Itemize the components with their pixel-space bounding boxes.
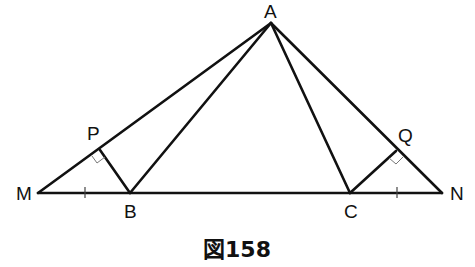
segment-CQ: [350, 151, 396, 193]
segment-BP: [100, 150, 130, 193]
label-M: M: [16, 183, 32, 204]
right-angle-mark-Q: [389, 157, 403, 164]
label-N: N: [450, 183, 464, 204]
segment-AM: [38, 23, 271, 193]
geometry-figure: A P Q M N B C 図158: [0, 0, 475, 267]
label-Q: Q: [398, 125, 413, 146]
figure-caption: 図158: [203, 237, 271, 262]
right-angle-mark-P: [92, 156, 105, 163]
segment-AN: [271, 23, 442, 193]
label-B: B: [124, 201, 137, 222]
segment-AC: [271, 23, 350, 193]
label-C: C: [344, 201, 358, 222]
segment-AB: [130, 23, 271, 193]
label-A: A: [264, 1, 277, 22]
label-P: P: [87, 123, 100, 144]
